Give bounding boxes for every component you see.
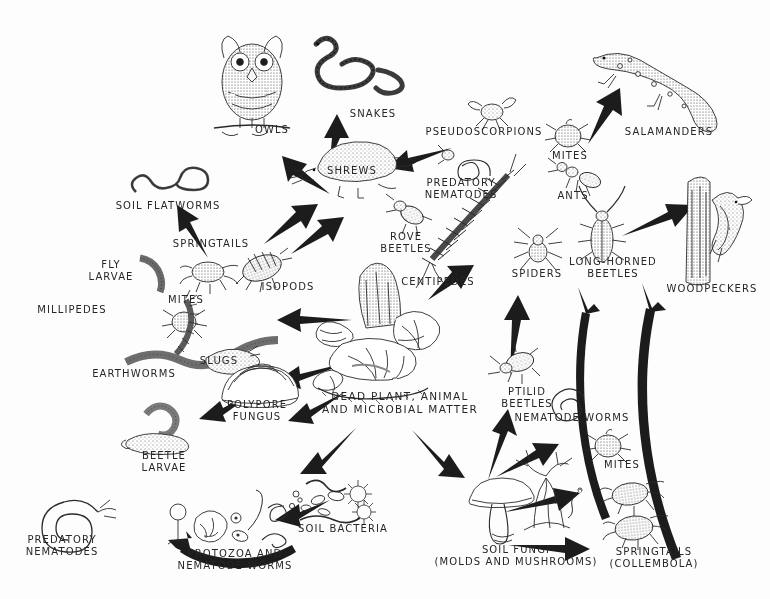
coiled-nematode-icon (438, 145, 490, 180)
mite-icon (162, 310, 207, 338)
label-protozoa: PROTOZOA AND NEMATODE WORMS (178, 548, 293, 572)
label-rove-beetles: ROVE BEETLES (380, 231, 432, 255)
arrow-right-group-to-shrews (387, 148, 452, 172)
snake-icon (316, 38, 402, 93)
label-springtails-lower: SPRINGTAILS (COLLEMBOLA) (609, 546, 698, 570)
label-earthworms: EARTHWORMS (92, 368, 176, 380)
label-centipedes: CENTIPEDES (401, 276, 475, 288)
label-polypore-fungus: POLYPORE FUNGUS (227, 399, 287, 423)
label-mites-upper: MITES (552, 150, 588, 162)
woodpecker-on-trunk-icon (686, 177, 752, 285)
label-pseudoscorpions: PSEUDOSCORPIONS (426, 126, 543, 138)
arrow-springtails-to-beetles-head (578, 287, 600, 314)
springtail-icon (180, 262, 238, 294)
label-fly-larvae: FLY LARVAE (88, 259, 133, 283)
arrow-springtails-to-flatworms (177, 205, 208, 258)
label-snakes: SNAKES (350, 108, 397, 120)
arrow-hub-to-soil-fungi (412, 430, 465, 478)
label-soil-fungi: SOIL FUNGI (MOLDS AND MUSHROOMS) (435, 544, 598, 568)
label-predatory-nematodes-lower: PREDATORY NEMATODES (26, 534, 99, 558)
label-predatory-nematodes-upper: PREDATORY NEMATODES (425, 177, 498, 201)
label-salamanders: SALAMANDERS (625, 126, 713, 138)
label-millipedes: MILLIPEDES (37, 304, 106, 316)
arrow-mites-to-salamanders (588, 88, 622, 144)
label-spiders: SPIDERS (512, 268, 562, 280)
fly-larva-icon (140, 258, 162, 292)
arrow-shredders-to-predators (291, 217, 344, 254)
mite-icon (585, 430, 631, 463)
diagram-canvas (0, 0, 770, 599)
spider-icon (514, 228, 562, 270)
label-ants: ANTS (557, 190, 588, 202)
label-long-horned-beetles: LONG-HORNED BEETLES (569, 256, 657, 280)
label-slugs: SLUGS (200, 355, 238, 367)
label-mites-lower: MITES (604, 459, 640, 471)
label-shrews: SHREWS (327, 165, 377, 177)
arrow-hub-to-soil-bacteria (300, 428, 356, 474)
beetle-larva-icon (122, 406, 189, 455)
flatworm-icon (132, 168, 208, 192)
label-mites-left: MITES (168, 294, 204, 306)
label-ptilid-beetles: PTILID BEETLES (501, 386, 553, 410)
mite-icon (545, 120, 591, 153)
arrow-beetles-to-woodpeckers (622, 204, 694, 236)
label-nematode-worms: NEMATODE WORMS (515, 412, 630, 424)
label-soil-bacteria: SOIL BACTERIA (298, 523, 388, 535)
label-springtails-upper: SPRINGTAILS (173, 238, 249, 250)
label-woodpeckers: WOODPECKERS (667, 283, 758, 295)
bacteria-icon (289, 480, 376, 524)
label-owls: OWLS (255, 124, 289, 136)
label-soil-flatworms: SOIL FLATWORMS (116, 200, 221, 212)
label-isopods: ISOPODS (262, 281, 315, 293)
label-beetle-larvae: BEETLE LARVAE (141, 450, 186, 474)
arrow-fungi-to-nematode-worms (496, 443, 559, 477)
salamander-icon (593, 53, 717, 132)
arrow-springtails-to-woodpeckers-head (642, 283, 666, 312)
label-dead-organic-matter: DEAD PLANT, ANIMAL AND MICROBIAL MATTER (322, 390, 478, 416)
owl-icon (214, 36, 290, 136)
soil-food-web-diagram: OWLS SNAKES SHREWS SALAMANDERS WOODPECKE… (0, 0, 770, 599)
